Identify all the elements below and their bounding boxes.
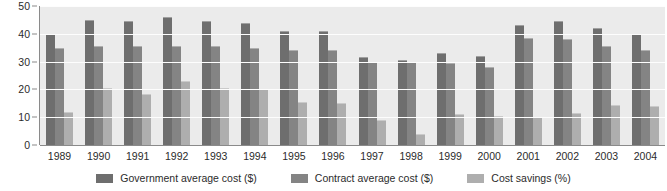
- gridline: [40, 6, 665, 7]
- gridline: [40, 62, 665, 63]
- bar-2001-series-1: [515, 25, 524, 145]
- bar-group-1994: [235, 6, 274, 145]
- legend-label: Cost savings (%): [491, 172, 570, 184]
- gridline: [40, 89, 665, 90]
- legend-item-1[interactable]: Government average cost ($): [96, 172, 257, 184]
- bar-1994-series-1: [241, 23, 250, 145]
- x-axis-tick-label-1994: 1994: [235, 148, 274, 164]
- x-axis-tick-label-2004: 2004: [626, 148, 665, 164]
- x-axis-tick-label-1992: 1992: [157, 148, 196, 164]
- bar-1991-series-3: [142, 94, 151, 145]
- legend-label: Contract average cost ($): [315, 172, 433, 184]
- bar-2003-series-3: [611, 105, 620, 145]
- bar-1996-series-3: [337, 103, 346, 145]
- legend-swatch-icon: [96, 174, 113, 183]
- bar-group-1999: [431, 6, 470, 145]
- x-axis-tick-label-1996: 1996: [313, 148, 352, 164]
- y-axis-tick-label: 20: [18, 84, 30, 95]
- bar-1992-series-1: [163, 17, 172, 145]
- bar-2003-series-1: [593, 28, 602, 145]
- bar-2002-series-1: [554, 21, 563, 145]
- bar-group-1991: [118, 6, 157, 145]
- bar-1996-series-2: [328, 50, 337, 145]
- bar-group-1990: [79, 6, 118, 145]
- y-axis-tick-mark: [32, 6, 37, 7]
- bar-group-2003: [587, 6, 626, 145]
- x-axis-labels: 1989199019911992199319941995199619971998…: [40, 148, 665, 164]
- bar-1997-series-2: [368, 62, 377, 145]
- bar-group-2001: [509, 6, 548, 145]
- bar-2000-series-3: [494, 116, 503, 145]
- bar-group-1996: [313, 6, 352, 145]
- x-axis-tick-label-1990: 1990: [79, 148, 118, 164]
- bar-group-1992: [157, 6, 196, 145]
- plot-area: [40, 6, 665, 145]
- bar-1998-series-2: [407, 62, 416, 145]
- bar-1995-series-2: [289, 50, 298, 145]
- bar-1995-series-1: [280, 31, 289, 145]
- bar-1997-series-3: [377, 120, 386, 145]
- x-axis-tick-label-1997: 1997: [353, 148, 392, 164]
- y-axis-tick-label: 10: [18, 112, 30, 123]
- bar-group-1998: [392, 6, 431, 145]
- y-axis-tick-label: 40: [18, 29, 30, 40]
- legend-label: Government average cost ($): [120, 172, 257, 184]
- bar-group-2004: [626, 6, 665, 145]
- x-axis-tick-label-1991: 1991: [118, 148, 157, 164]
- bar-1993-series-1: [202, 21, 211, 145]
- y-axis-tick-mark: [32, 33, 37, 34]
- bar-2004-series-3: [650, 106, 659, 145]
- bar-1998-series-3: [416, 134, 425, 145]
- bar-group-2002: [548, 6, 587, 145]
- y-axis-tick-mark: [32, 89, 37, 90]
- bar-1999-series-1: [437, 53, 446, 145]
- x-axis-tick-label-2003: 2003: [587, 148, 626, 164]
- y-axis-tick-mark: [32, 61, 37, 62]
- bar-1995-series-3: [298, 102, 307, 145]
- y-axis-tick-label: 0: [24, 140, 30, 151]
- bar-1999-series-2: [446, 63, 455, 145]
- x-axis-tick-label-2001: 2001: [509, 148, 548, 164]
- gridline: [40, 34, 665, 35]
- bar-1998-series-1: [398, 60, 407, 145]
- gridline: [40, 117, 665, 118]
- x-axis-tick-label-1989: 1989: [40, 148, 79, 164]
- x-axis-tick-label-1999: 1999: [431, 148, 470, 164]
- grouped-bar-chart: 01020304050 1989199019911992199319941995…: [0, 0, 667, 191]
- bar-2002-series-2: [563, 39, 572, 145]
- bar-1992-series-3: [181, 81, 190, 145]
- bar-1996-series-1: [319, 31, 328, 145]
- legend-item-2[interactable]: Contract average cost ($): [291, 172, 433, 184]
- bar-2000-series-2: [485, 67, 494, 145]
- x-axis-tick-label-1998: 1998: [392, 148, 431, 164]
- bar-groups: [40, 6, 665, 145]
- bar-group-1995: [274, 6, 313, 145]
- bar-group-1997: [353, 6, 392, 145]
- bar-1999-series-3: [455, 114, 464, 145]
- chart-legend: Government average cost ($)Contract aver…: [0, 168, 667, 188]
- bar-2001-series-3: [533, 117, 542, 145]
- bar-group-1989: [40, 6, 79, 145]
- y-axis-tick-mark: [32, 117, 37, 118]
- legend-swatch-icon: [467, 174, 484, 183]
- y-axis-tick-label: 30: [18, 56, 30, 67]
- y-axis-tick-mark: [32, 145, 37, 146]
- bar-2004-series-2: [641, 50, 650, 145]
- x-axis-tick-label-1993: 1993: [196, 148, 235, 164]
- bar-group-1993: [196, 6, 235, 145]
- y-axis-tick-label: 50: [18, 1, 30, 12]
- x-axis-tick-label-2000: 2000: [470, 148, 509, 164]
- y-axis: 01020304050: [0, 0, 40, 150]
- bar-1991-series-1: [124, 21, 133, 145]
- bar-1990-series-1: [85, 20, 94, 145]
- legend-item-3[interactable]: Cost savings (%): [467, 172, 570, 184]
- bar-2000-series-1: [476, 56, 485, 145]
- x-axis-tick-label-2002: 2002: [548, 148, 587, 164]
- bar-1997-series-1: [359, 57, 368, 145]
- bar-2001-series-2: [524, 38, 533, 145]
- x-axis-line: [40, 145, 665, 146]
- legend-swatch-icon: [291, 174, 308, 183]
- x-axis-tick-label-1995: 1995: [274, 148, 313, 164]
- bar-group-2000: [470, 6, 509, 145]
